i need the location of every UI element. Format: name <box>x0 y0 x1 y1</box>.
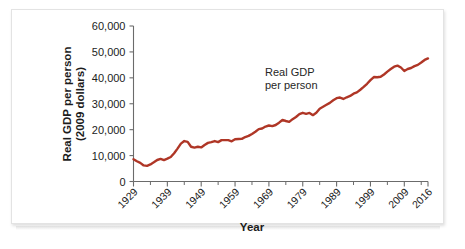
series-callout: Real GDP per person <box>265 66 318 91</box>
y-tick-label: 10,000 <box>92 150 126 162</box>
x-tick-label: 1989 <box>318 185 343 210</box>
y-tick-label: 20,000 <box>92 124 126 136</box>
x-tick-label: 1979 <box>284 185 309 210</box>
y-axis-title-line1: Real GDP per person <box>61 47 73 162</box>
series-callout-line2: per person <box>265 79 318 91</box>
x-tick-label: 1999 <box>352 185 377 210</box>
y-tick-label: 30,000 <box>92 98 126 110</box>
x-axis-ticks <box>134 182 429 187</box>
x-tick-label: 2009 <box>386 185 411 210</box>
x-tick-label: 2016 <box>409 185 434 210</box>
y-tick-label: 0 <box>119 176 125 188</box>
y-axis-title: Real GDP per person (2009 dollars) <box>61 47 86 162</box>
x-tick-label: 1939 <box>149 185 174 210</box>
y-axis-tick-labels: 010,00020,00030,00040,00050,00060,000 <box>92 20 126 188</box>
series-callout-line1: Real GDP <box>265 66 315 78</box>
y-axis-title-line2: (2009 dollars) <box>74 67 86 141</box>
x-axis-title: Year <box>240 221 265 233</box>
y-tick-label: 60,000 <box>92 20 126 32</box>
x-tick-label: 1969 <box>250 185 275 210</box>
x-tick-label: 1959 <box>216 185 241 210</box>
x-tick-label: 1929 <box>115 185 140 210</box>
y-tick-label: 40,000 <box>92 72 126 84</box>
y-tick-label: 50,000 <box>92 46 126 58</box>
x-tick-label: 1949 <box>183 185 208 210</box>
x-axis-tick-labels: 1929193919491959196919791989199920092016 <box>115 185 435 210</box>
real-gdp-per-person-chart: 010,00020,00030,00040,00050,00060,000 19… <box>0 0 465 249</box>
